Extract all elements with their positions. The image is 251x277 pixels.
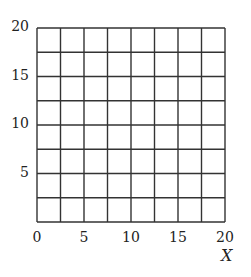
x-tick-label: 0 <box>22 230 52 244</box>
y-tick-label: 15 <box>3 68 29 82</box>
chart-area: 5101520 05101520 X <box>0 0 251 277</box>
y-tick-label: 20 <box>3 19 29 33</box>
x-tick-label: 10 <box>116 230 146 244</box>
x-tick-label: 5 <box>69 230 99 244</box>
y-tick-label: 5 <box>3 165 29 179</box>
x-tick-label: 20 <box>210 230 240 244</box>
y-tick-label: 10 <box>3 116 29 130</box>
x-tick-label: 15 <box>163 230 193 244</box>
x-axis-label: X <box>221 246 232 265</box>
